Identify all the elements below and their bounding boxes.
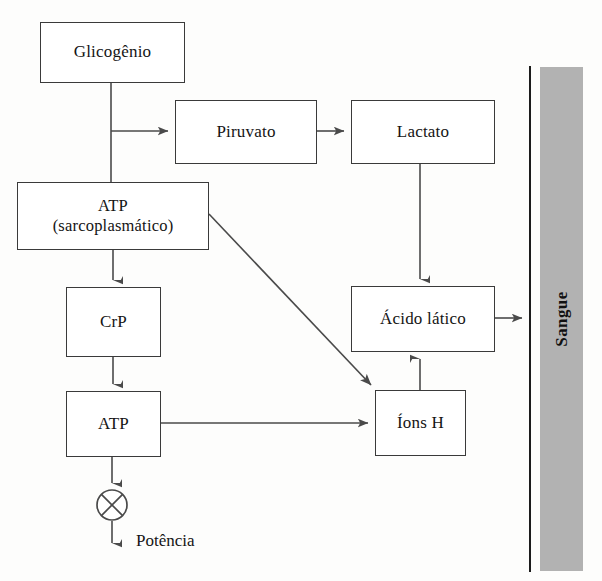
node-crp[interactable]: CrP xyxy=(66,287,161,357)
node-atp-label: ATP xyxy=(98,414,129,435)
node-crp-label: CrP xyxy=(100,312,127,333)
node-glicogenio[interactable]: Glicogênio xyxy=(40,22,185,83)
node-atp-sarcoplasmatico-label: ATP (sarcoplasmático) xyxy=(49,196,178,236)
node-lactato-label: Lactato xyxy=(397,122,449,143)
node-atp[interactable]: ATP xyxy=(66,391,161,457)
node-ions-h[interactable]: Íons H xyxy=(375,390,466,456)
node-acido-latico-label: Ácido lático xyxy=(380,309,466,330)
node-acido-latico[interactable]: Ácido lático xyxy=(351,286,495,352)
blood-compartment: Sangue xyxy=(540,67,583,571)
blood-boundary-line xyxy=(529,66,531,572)
node-piruvato[interactable]: Piruvato xyxy=(175,100,317,164)
blood-compartment-label: Sangue xyxy=(552,291,572,346)
node-piruvato-label: Piruvato xyxy=(216,122,275,143)
edge-atp-sarco-to-ions xyxy=(209,214,371,385)
diagram-canvas: Glicogênio Piruvato Lactato ATP (sarcopl… xyxy=(0,0,602,581)
node-lactato[interactable]: Lactato xyxy=(351,100,495,164)
node-glicogenio-label: Glicogênio xyxy=(74,42,152,63)
node-atp-sarcoplasmatico-label-line1: ATP xyxy=(53,196,174,216)
node-ions-h-label: Íons H xyxy=(397,413,444,434)
node-atp-sarcoplasmatico[interactable]: ATP (sarcoplasmático) xyxy=(17,182,209,250)
node-atp-sarcoplasmatico-label-line2: (sarcoplasmático) xyxy=(53,216,174,236)
power-output-symbol xyxy=(97,490,127,520)
power-output-label: Potência xyxy=(136,531,195,551)
